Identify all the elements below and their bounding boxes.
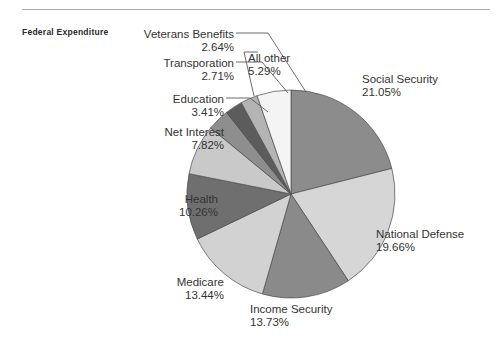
slice-label-social-security: Social Security 21.05%	[362, 73, 482, 99]
slice-label-name: Medicare	[177, 276, 224, 288]
pie-slices	[187, 90, 395, 298]
slice-label-name: Social Security	[362, 73, 438, 85]
slice-label-transportation: Transporation 2.71%	[110, 57, 234, 83]
slice-label-value: 10.26%	[110, 206, 218, 219]
slice-label-name: Health	[185, 193, 218, 205]
slice-label-education: Education 3.41%	[110, 93, 224, 119]
slice-label-veterans-benefits: Veterans Benefits 2.64%	[118, 28, 234, 54]
slice-label-value: 19.66%	[376, 241, 500, 254]
slice-label-value: 5.29%	[248, 65, 332, 78]
slice-label-name: Net Interest	[165, 126, 224, 138]
slice-label-national-defense: National Defense 19.66%	[376, 228, 500, 254]
slice-label-value: 3.41%	[110, 106, 224, 119]
slice-label-value: 13.73%	[250, 316, 362, 329]
slice-label-medicare: Medicare 13.44%	[120, 276, 224, 302]
slice-label-net-interest: Net Interest 7.82%	[102, 126, 224, 152]
slice-label-all-other: All other 5.29%	[248, 52, 332, 78]
slice-label-value: 21.05%	[362, 86, 482, 99]
slice-label-name: National Defense	[376, 228, 464, 240]
slice-label-value: 2.64%	[118, 41, 234, 54]
slice-label-name: Transporation	[163, 57, 234, 69]
slice-label-name: Education	[173, 93, 224, 105]
slice-label-value: 13.44%	[120, 289, 224, 302]
slice-label-name: Veterans Benefits	[144, 28, 234, 40]
slice-label-income-security: Income Security 13.73%	[250, 303, 362, 329]
slice-label-value: 7.82%	[102, 139, 224, 152]
slice-label-health: Health 10.26%	[110, 193, 218, 219]
slice-label-value: 2.71%	[110, 70, 234, 83]
chart-page: Federal Expenditure Veterans Benefits 2.…	[0, 0, 502, 342]
slice-label-name: Income Security	[250, 303, 332, 315]
slice-label-name: All other	[248, 52, 290, 64]
